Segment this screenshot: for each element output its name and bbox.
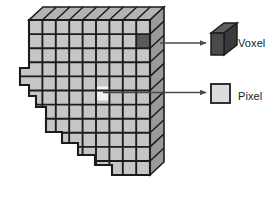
highlighted-voxel-cell [136,34,150,48]
voxel-legend-label: Voxel [238,38,265,49]
slab-side-faces [150,7,164,175]
diagram-canvas [0,0,271,203]
voxel-icon [211,23,237,55]
voxel-pixel-figure: Voxel Pixel [0,0,271,203]
pixel-icon [211,84,230,103]
slab-top-faces [29,7,164,20]
pixel-legend-label: Pixel [238,91,262,102]
highlighted-pixel-cell [96,86,109,100]
slab-front-face [20,20,150,175]
